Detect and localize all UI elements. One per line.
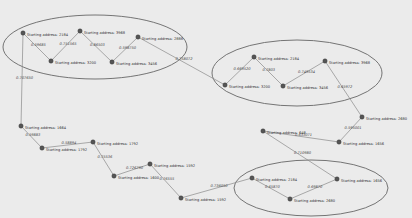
edge-weight-label: 0.7803 <box>263 68 276 72</box>
edge-weight-label: 0.595001 <box>345 126 362 130</box>
graph-node[interactable] <box>337 140 341 144</box>
node-label: Starting address: 1664 <box>25 126 67 130</box>
graph-node[interactable] <box>323 59 327 63</box>
graph-edge <box>93 142 114 176</box>
edge-weight-label: 0.669520 <box>234 67 252 71</box>
graph-node[interactable] <box>360 115 364 119</box>
node-label: Starting address: 2184 <box>27 33 69 37</box>
node-label: Starting address: 1792 <box>46 148 87 152</box>
graph-node[interactable] <box>335 177 339 181</box>
node-label: Starting address: 1656 <box>341 179 383 183</box>
graph-canvas: 0.596850.7515650.865030.5987500.7580720.… <box>0 0 412 218</box>
edge-weight-label: 0.59685 <box>31 43 47 47</box>
node-label: Starting address: 3456 <box>287 86 329 90</box>
node-label: Starting address: 648 <box>267 131 307 135</box>
graph-node[interactable] <box>49 59 53 63</box>
graph-edge <box>254 57 283 86</box>
graph-edge <box>21 33 23 126</box>
edge-weight-label: 0.75536 <box>98 155 114 159</box>
node-label: Starting address: 1592 <box>154 164 195 168</box>
edge-weight-label: 0.69870 <box>308 185 324 189</box>
node-label: Starting address: 1600 <box>118 176 160 180</box>
edge-weight-label: 0.758072 <box>176 57 194 61</box>
graph-node[interactable] <box>112 174 116 178</box>
graph-node[interactable] <box>21 31 25 35</box>
node-label: Starting address: 3968 <box>329 61 371 65</box>
edge-weight-label: 0.749534 <box>298 70 316 74</box>
graph-node[interactable] <box>148 162 152 166</box>
graph-node[interactable] <box>91 140 95 144</box>
graph-node[interactable] <box>252 55 256 59</box>
node-label: Starting address: 3200 <box>55 61 97 65</box>
graph-edge <box>80 31 112 62</box>
graph-node[interactable] <box>19 124 23 128</box>
edge-weight-label: 0.65870 <box>265 185 281 189</box>
graph-node[interactable] <box>179 196 183 200</box>
node-label: Starting address: 2680 <box>294 199 336 203</box>
node-label: Starting address: 1656 <box>343 142 385 146</box>
edge-weight-label: 0.710980 <box>294 151 312 155</box>
edge-weight-label: 0.707650 <box>16 76 34 80</box>
node-label: Starting address: 2888 <box>142 37 184 41</box>
graph-node[interactable] <box>110 60 114 64</box>
graph-edge <box>325 61 362 117</box>
edge-weight-label: 0.76555 <box>160 177 176 181</box>
node-label: Starting address: 1592 <box>185 198 226 202</box>
node-label: Starting address: 3456 <box>116 62 158 66</box>
graph-node[interactable] <box>250 176 254 180</box>
graph-edge <box>339 117 362 142</box>
node-label: Starting address: 2184 <box>258 57 300 61</box>
node-label: Starting address: 2184 <box>256 178 298 182</box>
graph-edge <box>283 61 325 86</box>
graph-edge <box>263 131 337 179</box>
node-label: Starting address: 3968 <box>84 31 126 35</box>
edge-weight-label: 0.65972 <box>338 85 354 89</box>
graph-edge <box>23 33 51 61</box>
node-label: Starting address: 3200 <box>229 85 271 89</box>
graph-node[interactable] <box>136 35 140 39</box>
edge-weight-label: 0.58894 <box>62 141 78 145</box>
node-label: Starting address: 1792 <box>97 142 138 146</box>
graph-edge <box>290 179 337 199</box>
edge-weight-label: 0.59883 <box>26 133 42 137</box>
graph-node[interactable] <box>223 83 227 87</box>
graph-node[interactable] <box>288 197 292 201</box>
node-label: Starting address: 2680 <box>366 117 408 121</box>
cluster-ellipse <box>3 15 187 79</box>
graph-edge <box>225 57 254 85</box>
graph-node[interactable] <box>78 29 82 33</box>
graph-edge <box>181 178 252 198</box>
edge-weight-label: 0.598750 <box>119 46 137 50</box>
edge-weight-label: 0.736050 <box>211 184 229 188</box>
edge-weight-label: 0.86503 <box>90 43 106 47</box>
graph-node[interactable] <box>40 146 44 150</box>
edge-weight-label: 0.726790 <box>126 166 144 170</box>
edge-weight-label: 0.751565 <box>60 42 78 46</box>
graph-node[interactable] <box>261 129 265 133</box>
graph-edge <box>138 37 225 85</box>
graph-edge <box>150 164 181 198</box>
graph-edge <box>112 37 138 62</box>
graph-node[interactable] <box>281 84 285 88</box>
graph-svg: 0.596850.7515650.865030.5987500.7580720.… <box>0 0 412 218</box>
